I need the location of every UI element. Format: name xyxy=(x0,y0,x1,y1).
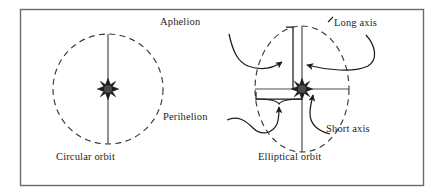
label-short-axis: Short axis xyxy=(326,124,370,135)
label-perihelion: Perihelion xyxy=(163,112,208,123)
diagram-canvas xyxy=(0,0,442,196)
sun-star-icon-left xyxy=(98,79,119,100)
label-aphelion: Aphelion xyxy=(160,17,200,28)
label-long-axis: Long axis xyxy=(334,18,377,29)
orbit-diagram-figure: Aphelion Perihelion Circular orbit Long … xyxy=(0,0,442,196)
caption-circular-orbit: Circular orbit xyxy=(56,152,115,163)
sun-star-icon-right xyxy=(292,79,313,100)
caption-elliptical-orbit: Elliptical orbit xyxy=(258,152,321,163)
